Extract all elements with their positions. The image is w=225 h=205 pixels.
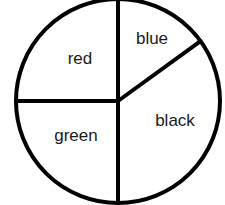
slice-label-blue: blue bbox=[136, 29, 168, 48]
pie-chart: red blue black green bbox=[0, 0, 225, 205]
slice-label-green: green bbox=[54, 126, 97, 145]
slice-label-black: black bbox=[155, 111, 195, 130]
slice-label-red: red bbox=[68, 49, 93, 68]
